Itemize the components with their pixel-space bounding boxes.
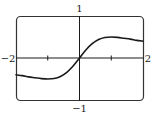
function-graph: 1 −1 −2 2 (0, 0, 152, 116)
x-min-label: −2 (1, 53, 16, 64)
y-min-label: −1 (72, 103, 87, 114)
x-max-label: 2 (145, 53, 151, 64)
y-max-label: 1 (76, 3, 82, 14)
